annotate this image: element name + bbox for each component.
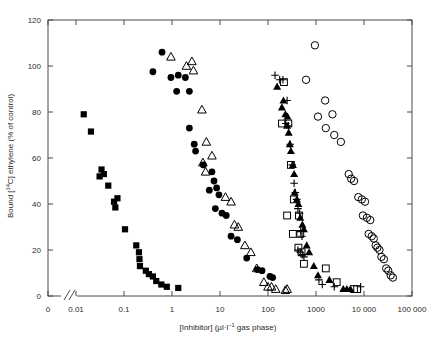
data-point-filled-triangle [287,147,295,154]
data-point-filled-square [175,285,181,291]
data-point-filled-triangle [290,170,298,177]
data-point-open-circle [372,242,379,249]
x-tick-label: 1000 [307,305,325,314]
data-point-filled-square [122,226,128,232]
data-point-open-circle [374,244,381,251]
data-point-filled-triangle [285,129,293,136]
data-point-open-circle [322,124,329,131]
x-tick-label: 100 [261,305,275,314]
data-point-filled-circle [175,72,182,79]
data-point-filled-square [136,249,142,255]
x-tick-label: 10 000 [352,305,377,314]
data-point-filled-circle [186,88,193,95]
data-point-filled-square [133,242,139,248]
y-tick-label: 60 [32,154,41,163]
data-point-filled-square [112,204,118,210]
x-axis-tick-labels: 00.010.1110100100010 000100 000 [46,305,427,314]
x-axis-ticks [48,20,412,296]
data-point-open-circle [385,267,392,274]
x-tick-label: 0.01 [68,305,84,314]
data-point-filled-square [101,171,107,177]
data-point-open-triangle [241,241,250,249]
data-point-open-triangle [198,105,207,113]
data-point-plus [290,180,298,188]
data-point-open-circle [329,111,336,118]
series-filled-triangle [273,83,354,293]
plot-frame [48,20,412,299]
data-point-filled-circle [216,191,223,198]
data-point-filled-square [137,263,143,269]
data-point-filled-triangle [310,262,318,269]
data-point-open-triangle [188,57,197,65]
y-axis-title: Bound [14C] ethylene (% of control) [5,94,15,218]
data-point-filled-triangle [325,276,333,283]
y-tick-label: 40 [32,200,41,209]
series-open-circle [302,42,396,282]
data-point-filled-circle [211,178,218,185]
x-tick-label: 0 [46,305,51,314]
data-point-filled-square [136,256,142,262]
series-filled-square [81,111,182,291]
series-filled-circle [149,49,276,281]
data-point-open-circle [311,42,318,49]
data-point-filled-circle [173,88,180,95]
data-point-filled-triangle [273,83,281,90]
data-point-filled-circle [213,185,220,192]
x-axis-title: [Inhibitor] (µl·l−1 gas phase) [180,322,277,332]
data-point-filled-circle [159,49,166,56]
data-point-open-circle [389,274,396,281]
data-point-filled-square [114,195,120,201]
x-tick-label: 10 [216,305,225,314]
y-axis-ticks [48,20,412,296]
y-tick-label: 100 [28,62,42,71]
data-point-open-circle [314,113,321,120]
data-point-filled-triangle [314,271,322,278]
data-point-filled-circle [192,148,199,155]
data-point-filled-circle [186,125,193,132]
x-tick-label: 100 000 [398,305,427,314]
data-point-filled-square [88,128,94,134]
data-point-open-triangle [182,62,191,70]
data-point-open-circle [345,170,352,177]
data-point-filled-square [158,281,164,287]
data-point-open-square [322,265,329,272]
data-point-filled-triangle [296,214,304,221]
data-point-filled-circle [223,212,230,219]
ethylene-binding-scatter-chart: 00.010.1110100100010 000100 000 02040608… [0,0,436,340]
data-point-open-triangle [221,193,230,201]
data-point-filled-square [164,284,170,290]
x-tick-label: 1 [170,305,175,314]
data-point-open-circle [370,235,377,242]
data-point-open-square [289,231,296,238]
data-point-filled-circle [234,236,241,243]
data-point-filled-circle [168,74,175,81]
data-point-filled-circle [212,205,219,212]
data-point-plus [298,232,306,240]
y-tick-label: 80 [32,108,41,117]
data-point-plus [318,281,326,289]
data-point-open-triangle [208,151,217,159]
data-point-open-circle [321,97,328,104]
x-tick-label: 0.1 [118,305,130,314]
data-point-filled-triangle [298,221,306,228]
series-open-square [279,79,361,293]
data-point-open-triangle [201,167,210,175]
data-point-open-triangle [189,66,198,74]
data-point-filled-square [105,183,111,189]
data-point-filled-triangle [305,248,313,255]
data-point-plus [330,283,338,291]
data-point-filled-circle [182,74,189,81]
data-point-open-circle [387,272,394,279]
chart-canvas: 00.010.1110100100010 000100 000 02040608… [0,0,436,340]
data-point-open-triangle [167,52,176,60]
y-tick-label: 120 [28,16,42,25]
data-point-open-square [284,212,291,219]
data-point-open-circle [331,131,338,138]
data-point-open-triangle [227,197,236,205]
data-point-plus [357,283,365,291]
data-point-filled-circle [191,141,198,148]
data-point-open-triangle [271,285,280,293]
data-point-filled-triangle [303,241,311,248]
data-point-open-circle [382,265,389,272]
data-point-open-circle [376,246,383,253]
